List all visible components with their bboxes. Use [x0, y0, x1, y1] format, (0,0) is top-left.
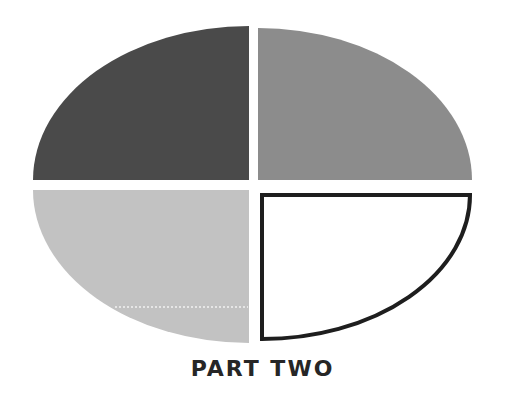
- diagram-caption: PART TWO: [0, 356, 505, 381]
- quadrant-top-left: [33, 26, 249, 180]
- quadrant-top-right: [258, 28, 472, 180]
- quartered-oval-diagram: [0, 0, 505, 408]
- quadrant-bottom-right: [262, 195, 470, 339]
- quadrant-bottom-left: [33, 190, 249, 343]
